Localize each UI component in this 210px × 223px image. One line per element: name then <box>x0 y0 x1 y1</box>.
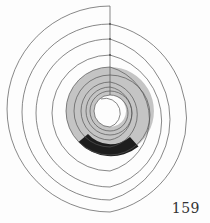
book-page: 159 <box>0 0 210 223</box>
spiral-figure <box>0 0 210 223</box>
spiral-lines <box>7 6 186 212</box>
page-number: 159 <box>172 200 200 216</box>
